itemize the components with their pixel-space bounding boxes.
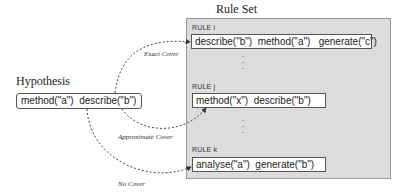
- edge-label-no-cover: No Cover: [118, 180, 145, 188]
- edge-label-exact: Exact Cover: [144, 50, 179, 58]
- edge-label-approximate: Approximate Cover: [118, 133, 173, 141]
- edge-arrows: [0, 0, 404, 194]
